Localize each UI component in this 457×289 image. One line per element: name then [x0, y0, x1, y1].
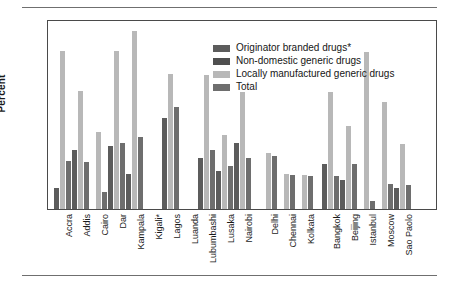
bar-group — [144, 21, 162, 209]
bar — [228, 166, 233, 209]
x-axis-tick-label: Lusaka — [226, 214, 236, 243]
bar — [240, 92, 245, 209]
bottom-horizontal-rule — [22, 275, 437, 276]
bar — [84, 162, 89, 209]
x-axis-tick-label: Moscow — [386, 214, 396, 247]
x-axis-tick-label: Beijing — [350, 214, 360, 241]
bar — [334, 176, 339, 209]
legend-label: Non-domestic generic drugs — [236, 56, 361, 66]
bar — [266, 153, 271, 209]
bar — [322, 164, 327, 209]
bar — [346, 126, 351, 209]
bar — [114, 51, 119, 209]
bar — [96, 132, 101, 209]
bar — [284, 174, 289, 209]
top-horizontal-rule — [22, 7, 437, 8]
x-axis-tick-label: Delhi — [270, 214, 280, 235]
bar — [162, 118, 167, 209]
legend-item: Originator branded drugs* — [213, 42, 453, 54]
plot-area: Originator branded drugs*Non-domestic ge… — [47, 20, 437, 210]
legend-label: Locally manufactured generic drugs — [236, 69, 394, 79]
x-axis-tick-label: Kampala — [136, 214, 146, 250]
bar — [370, 201, 375, 209]
x-axis-tick-label: Dar — [118, 214, 128, 229]
x-axis-tick-label: Accra — [64, 214, 74, 237]
bar — [352, 164, 357, 209]
bar — [382, 102, 387, 209]
legend-label: Total — [236, 82, 257, 92]
x-axis-tick-label: Istanbul — [368, 214, 378, 246]
x-axis-tick-label: Lagos — [172, 214, 182, 239]
bar — [308, 176, 313, 209]
bar — [102, 192, 107, 209]
legend-item: Total — [213, 81, 453, 93]
bar — [198, 158, 203, 209]
bar-group — [54, 21, 72, 209]
x-axis-tick-label: Bangkok — [332, 214, 342, 249]
bar — [126, 174, 131, 209]
x-axis-tick-label: Kigali* — [154, 214, 164, 240]
bar — [272, 156, 277, 209]
x-axis-tick-label: Addis — [82, 214, 92, 237]
bar — [388, 184, 393, 209]
bar-group — [162, 21, 180, 209]
bar — [222, 135, 227, 209]
legend-swatch — [213, 45, 230, 52]
x-axis-tick-label: Lubumbashi — [208, 214, 218, 263]
bar — [204, 75, 209, 209]
bar — [78, 91, 83, 209]
chart-legend: Originator branded drugs*Non-domestic ge… — [213, 42, 453, 94]
legend-label: Originator branded drugs* — [236, 43, 351, 53]
bar — [216, 171, 221, 209]
figure-container: Percent 05101520 Originator branded drug… — [0, 0, 457, 289]
bar — [108, 146, 113, 209]
bar-group — [180, 21, 198, 209]
legend-item: Non-domestic generic drugs — [213, 55, 453, 67]
y-axis-title: Percent — [0, 74, 7, 112]
bar — [302, 175, 307, 209]
bar — [66, 161, 71, 209]
bar — [328, 92, 333, 209]
x-axis-tick-label: Sao Paolo — [404, 214, 414, 256]
x-axis-tick-label: Chennai — [288, 214, 298, 248]
bar — [234, 143, 239, 209]
x-axis-tick-label: Kolkata — [306, 214, 316, 244]
bar — [406, 185, 411, 209]
legend-swatch — [213, 71, 230, 78]
bar — [72, 150, 77, 209]
bar — [394, 188, 399, 209]
bar — [174, 107, 179, 209]
bar — [400, 144, 405, 209]
x-axis-tick-label: Luanda — [190, 214, 200, 244]
bar — [246, 158, 251, 209]
x-axis-tick-label: Cairo — [100, 214, 110, 236]
legend-item: Locally manufactured generic drugs — [213, 68, 453, 80]
bar — [54, 188, 59, 209]
bar — [138, 137, 143, 209]
bar — [120, 143, 125, 210]
bar — [210, 150, 215, 209]
bar — [290, 175, 295, 209]
bar-group — [90, 21, 108, 209]
bar — [132, 31, 137, 209]
bar — [168, 74, 173, 209]
bar-group — [72, 21, 90, 209]
legend-swatch — [213, 58, 230, 65]
x-axis-tick-label: Nairobi — [244, 214, 254, 243]
bar — [340, 180, 345, 209]
legend-swatch — [213, 84, 230, 91]
bar-group — [108, 21, 126, 209]
bar-group — [126, 21, 144, 209]
bar — [60, 51, 65, 209]
